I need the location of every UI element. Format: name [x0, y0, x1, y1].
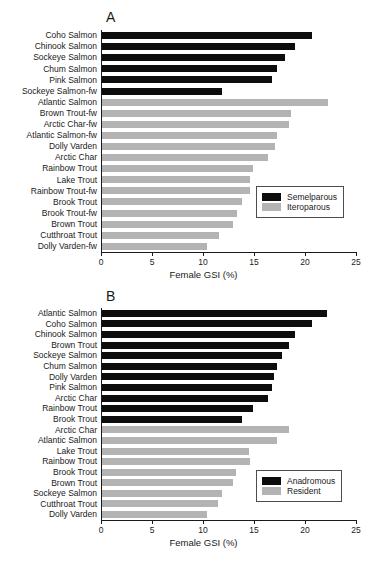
legend-swatch-iteroparous: [262, 203, 281, 211]
bar-category-label: Brook Trout: [53, 468, 97, 477]
x-tick-label: 5: [150, 257, 155, 267]
bar-category-label: Coho Salmon: [45, 31, 97, 40]
bar: [101, 416, 242, 423]
bar-category-label: Sockeye Salmon: [33, 53, 97, 62]
x-tick-label: 10: [198, 257, 207, 267]
bar-row: Rainbow Trout: [101, 403, 356, 414]
bar-row: Brown Trout: [101, 340, 356, 351]
bar: [101, 132, 277, 139]
panel-a-letter: A: [106, 9, 116, 25]
bar-row: Brown Trout-fw: [101, 108, 356, 119]
bar: [101, 448, 249, 455]
bar: [101, 310, 327, 317]
panel-a-x-axis-title-text: Female GSI (%): [169, 269, 237, 280]
bar-category-label: Cutthroat Trout: [40, 231, 97, 240]
figure-female-gsi: A Coho SalmonChinook SalmonSockeye Salmo…: [0, 0, 379, 576]
bar-row: Arctic Char: [101, 152, 356, 163]
bar-category-label: Rainbow Trout-fw: [31, 187, 97, 196]
panel-b: B Atlantic SalmonCoho SalmonChinook Salm…: [0, 286, 379, 576]
x-tick: [203, 252, 204, 256]
bar-row: Atlantic Salmon-fw: [101, 130, 356, 141]
bar-row: Rainbow Trout: [101, 456, 356, 467]
bar-row: Chinook Salmon: [101, 329, 356, 340]
bar-row: Cutthroat Trout: [101, 230, 356, 241]
legend-label-resident: Resident: [287, 487, 321, 496]
bar-row: Lake Trout: [101, 446, 356, 457]
legend-entry-iteroparous: Iteroparous: [262, 203, 337, 212]
bar: [101, 458, 250, 465]
x-tick: [305, 520, 306, 524]
bar: [101, 88, 222, 95]
bar-row: Atlantic Salmon: [101, 97, 356, 108]
x-tick: [305, 252, 306, 256]
x-tick: [152, 252, 153, 256]
x-tick-label: 10: [198, 525, 207, 535]
bar-category-label: Brook Trout: [53, 198, 97, 207]
bar: [101, 469, 236, 476]
bar: [101, 32, 312, 39]
panel-b-x-axis-title: Female GSI (%): [0, 537, 379, 548]
bar: [101, 165, 253, 172]
bar-category-label: Arctic Char-fw: [44, 120, 97, 129]
x-tick-label: 25: [351, 257, 360, 267]
bar-row: Dolly Varden: [101, 372, 356, 383]
bar-category-label: Sockeye Salmon: [33, 489, 97, 498]
bar: [101, 500, 218, 507]
bar-row: Sockeye Salmon-fw: [101, 85, 356, 96]
bar: [101, 187, 250, 194]
bar-row: Arctic Char-fw: [101, 119, 356, 130]
bar: [101, 511, 207, 518]
bar: [101, 110, 291, 117]
legend-entry-resident: Resident: [262, 487, 335, 496]
bar: [101, 43, 295, 50]
panel-b-legend: Anadromous Resident: [256, 470, 342, 502]
bar-row: Arctic Char: [101, 393, 356, 404]
bar-category-label: Lake Trout: [57, 176, 97, 185]
bar-category-label: Arctic Char: [55, 394, 97, 403]
bar-row: Pink Salmon: [101, 382, 356, 393]
bar: [101, 352, 282, 359]
panel-b-x-axis: [101, 520, 357, 521]
bar-category-label: Brook Trout: [53, 415, 97, 424]
x-tick: [356, 520, 357, 524]
bar: [101, 479, 233, 486]
bar-row: Atlantic Salmon: [101, 435, 356, 446]
bar-category-label: Pink Salmon: [49, 76, 97, 85]
bar: [101, 426, 289, 433]
bar: [101, 221, 233, 228]
panel-a-y-axis: [101, 30, 102, 252]
bar: [101, 121, 289, 128]
bar-row: Rainbow Trout: [101, 163, 356, 174]
x-tick: [356, 252, 357, 256]
bar-row: Sockeye Salmon: [101, 52, 356, 63]
bar-category-label: Coho Salmon: [45, 320, 97, 329]
bar-row: Arctic Char: [101, 425, 356, 436]
x-tick-label: 15: [249, 257, 258, 267]
bar-row: Coho Salmon: [101, 30, 356, 41]
panel-a-x-axis-title: Female GSI (%): [0, 269, 379, 280]
bar-category-label: Chum Salmon: [43, 65, 97, 74]
panel-a-x-axis: [101, 252, 357, 253]
x-tick-label: 0: [99, 257, 104, 267]
bar-row: Sockeye Salmon: [101, 350, 356, 361]
x-tick: [101, 252, 102, 256]
bar-category-label: Brown Trout: [51, 220, 97, 229]
x-tick: [152, 520, 153, 524]
bar-row: Chum Salmon: [101, 63, 356, 74]
bar: [101, 320, 312, 327]
panel-b-y-axis: [101, 308, 102, 520]
bar-category-label: Atlantic Salmon: [38, 98, 97, 107]
bar: [101, 437, 277, 444]
x-tick-label: 0: [99, 525, 104, 535]
bar-category-label: Brown Trout: [51, 479, 97, 488]
bar: [101, 210, 237, 217]
panel-a: A Coho SalmonChinook SalmonSockeye Salmo…: [0, 0, 379, 286]
bar-category-label: Rainbow Trout: [42, 164, 97, 173]
x-tick: [101, 520, 102, 524]
bar: [101, 490, 222, 497]
bar: [101, 154, 268, 161]
x-tick-label: 25: [351, 525, 360, 535]
panel-b-x-axis-title-text: Female GSI (%): [169, 537, 237, 548]
bar-row: Chum Salmon: [101, 361, 356, 372]
bar: [101, 243, 207, 250]
